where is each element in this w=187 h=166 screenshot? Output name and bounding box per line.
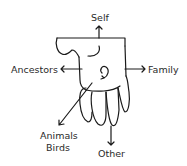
label-other: Other <box>98 149 125 159</box>
hand-diagram: Self Ancestors Family Animals Birds Othe… <box>0 0 187 166</box>
label-self: Self <box>91 13 109 23</box>
label-ancestors: Ancestors <box>11 65 58 75</box>
label-family: Family <box>148 65 179 75</box>
hand-icon <box>0 0 187 166</box>
label-birds: Birds <box>46 143 70 153</box>
label-animals: Animals <box>40 131 78 141</box>
